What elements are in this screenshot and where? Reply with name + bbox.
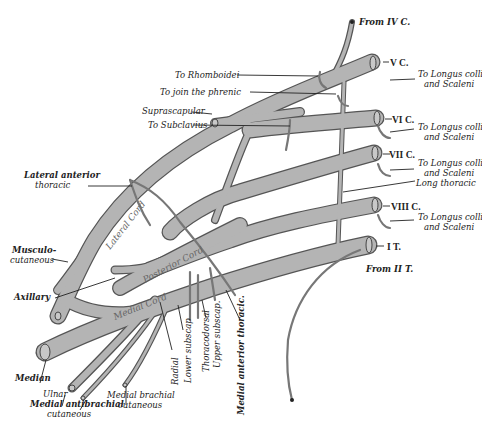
svg-text:cutaneous: cutaneous <box>118 400 163 410</box>
label-from-iv-c: From IV C. <box>358 17 410 27</box>
label-root-vii: VII C. <box>389 150 415 160</box>
svg-text:cutaneous: cutaneous <box>47 409 92 419</box>
label-radial: Radial <box>170 357 180 386</box>
label-long-thoracic: Long thoracic <box>415 178 476 188</box>
label-medial-anterior-thoracic: Medial anterior thoracic. <box>236 295 246 416</box>
label-suprascapular: Suprascapular <box>142 106 206 116</box>
svg-text:and Scaleni: and Scaleni <box>424 168 475 178</box>
svg-text:and Scaleni: and Scaleni <box>424 79 475 89</box>
label-longus-viii: To Longus colli and Scaleni <box>418 212 482 232</box>
label-longus-v: To Longus colli and Scaleni <box>418 69 482 89</box>
svg-text:To Longus colli: To Longus colli <box>418 69 482 79</box>
svg-text:To Longus colli: To Longus colli <box>418 212 482 222</box>
label-root-vi: VI C. <box>392 115 414 125</box>
label-median: Median <box>14 373 51 383</box>
svg-text:Lateral anterior: Lateral anterior <box>23 170 100 180</box>
label-from-ii-t: From II T. <box>365 264 413 274</box>
svg-text:and Scaleni: and Scaleni <box>424 222 475 232</box>
label-thoracodorsal: Thoracodorsal <box>201 310 211 372</box>
label-medial-antibrachial-cutaneous: Medial antibrachial cutaneous <box>29 399 125 419</box>
label-lower-subscap: Lower subscap <box>183 318 193 384</box>
label-to-join-phrenic: To join the phrenic <box>160 87 241 97</box>
label-ulnar: Ulnar <box>43 389 68 399</box>
svg-text:To Longus colli: To Longus colli <box>418 158 482 168</box>
label-longus-vi: To Longus colli and Scaleni <box>418 122 482 142</box>
label-root-viii: VIII C. <box>391 202 421 212</box>
label-to-rhomboidei: To Rhomboidei <box>175 70 240 80</box>
label-longus-vii: To Longus colli and Scaleni <box>418 158 482 178</box>
svg-text:Musculo-: Musculo- <box>11 245 57 255</box>
label-musculocutaneous: Musculo- cutaneous <box>10 245 57 265</box>
label-root-v: V C. <box>390 58 408 68</box>
brachial-plexus-diagram: Lateral Cord Posterior Cord Medial Cord … <box>0 0 482 427</box>
svg-text:cutaneous: cutaneous <box>10 255 55 265</box>
label-root-i-t: I T. <box>387 242 401 252</box>
svg-text:Medial antibrachial: Medial antibrachial <box>29 399 125 409</box>
label-axillary: Axillary <box>13 292 51 302</box>
svg-text:thoracic: thoracic <box>35 180 71 190</box>
svg-text:Medial brachial: Medial brachial <box>106 390 175 400</box>
label-upper-subscap: Upper subscap. <box>212 301 222 368</box>
svg-text:and Scaleni: and Scaleni <box>424 132 475 142</box>
label-to-subclavius: To Subclavius <box>148 120 208 130</box>
labels: From IV C. V C. VI C. VII C. VIII C. I T… <box>10 17 482 419</box>
svg-text:To Longus colli: To Longus colli <box>418 122 482 132</box>
label-lateral-anterior-thoracic: Lateral anterior thoracic <box>23 170 100 190</box>
